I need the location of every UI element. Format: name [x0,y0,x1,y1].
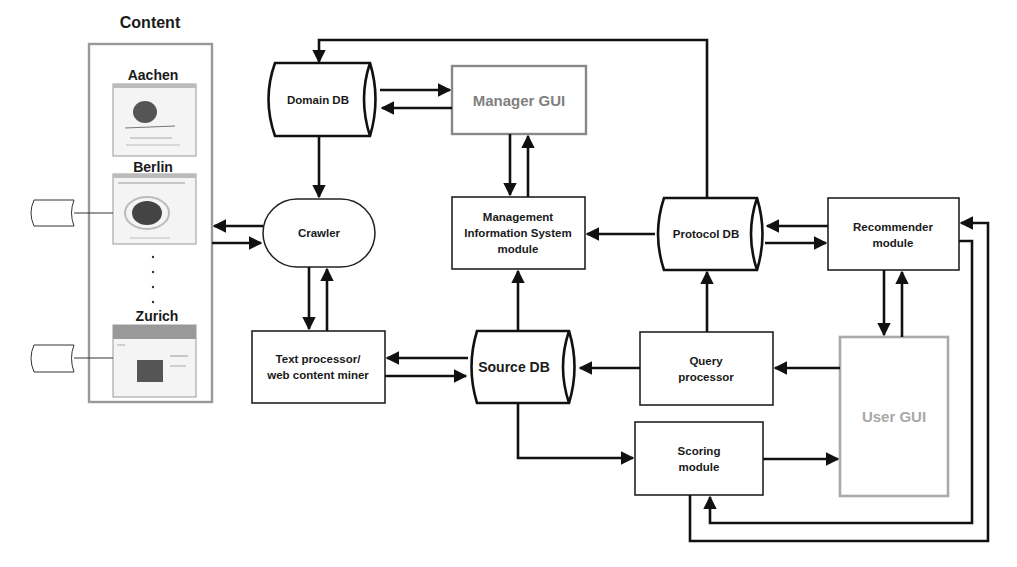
user-gui-label: User GUI [862,408,926,425]
query-processor-label-line2: processor [678,371,734,383]
city-label-berlin: Berlin [133,159,173,175]
scoring-label-line1: Scoring [678,445,721,457]
city-label-aachen: Aachen [128,67,179,83]
manager-gui-node: Manager GUI [452,66,586,134]
crawler-label: Crawler [298,227,341,239]
query-processor-node: Query processor [640,332,773,405]
protocol-db-node: Protocol DB [658,198,763,270]
mis-label-line3: module [498,243,539,255]
user-gui-node: User GUI [840,337,948,496]
recommender-node: Recommender module [828,198,959,270]
scoring-label-line2: module [679,461,720,473]
domain-db-label: Domain DB [287,94,349,106]
text-processor-label-line1: Text processor/ [276,353,362,365]
source-db-label: Source DB [478,359,550,375]
edge-sourcedb-scoring [518,403,633,458]
zurich-website-thumbnail [113,325,196,397]
manager-gui-label: Manager GUI [473,92,566,109]
content-title: Content [120,14,181,31]
recommender-label-line2: module [873,237,914,249]
content-panel: Content Aachen Berlin Zurich [89,14,212,402]
architecture-diagram: Content Aachen Berlin Zurich [0,0,1017,567]
domain-db-node: Domain DB [269,63,376,136]
berlin-website-thumbnail [113,174,196,244]
text-processor-label-line2: web content miner [266,369,369,381]
mis-node: Management Information System module [452,197,585,269]
protocol-db-label: Protocol DB [673,228,739,240]
query-processor-label-line1: Query [689,355,723,367]
crawler-node: Crawler [263,199,375,267]
text-processor-node: Text processor/ web content miner [252,331,385,403]
source-db-node: Source DB [472,331,575,403]
mis-label-line1: Management [483,211,553,223]
mis-label-line2: Information System [464,227,571,239]
scoring-node: Scoring module [635,422,763,495]
city-label-zurich: Zurich [136,308,179,324]
aachen-website-thumbnail [113,84,196,156]
recommender-label-line1: Recommender [853,221,933,233]
